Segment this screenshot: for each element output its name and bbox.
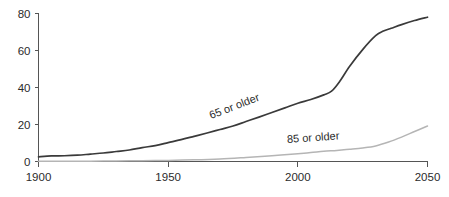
line-chart: 020406080190019502000205065 or older85 o… bbox=[0, 0, 449, 197]
y-tick-label: 0 bbox=[24, 156, 30, 168]
chart-canvas: 020406080190019502000205065 or older85 o… bbox=[0, 0, 449, 197]
series-annotation-85-or-older: 85 or older bbox=[286, 129, 340, 145]
axis-lines bbox=[39, 14, 428, 162]
y-tick-label: 60 bbox=[18, 45, 31, 57]
x-tick-label: 2000 bbox=[285, 171, 311, 183]
x-tick-label: 1900 bbox=[26, 171, 52, 183]
x-tick-label: 1950 bbox=[155, 171, 181, 183]
series-line-65-or-older bbox=[39, 17, 428, 157]
y-tick-label: 80 bbox=[18, 8, 31, 20]
series-line-85-or-older bbox=[39, 126, 428, 161]
series-annotation-65-or-older: 65 or older bbox=[207, 91, 261, 121]
y-tick-label: 40 bbox=[18, 82, 31, 94]
y-tick-label: 20 bbox=[18, 119, 31, 131]
x-tick-label: 2050 bbox=[415, 171, 441, 183]
